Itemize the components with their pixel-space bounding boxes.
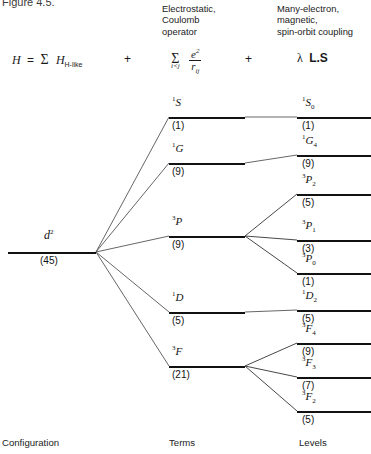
coulomb-sum-subscript: i<j xyxy=(171,63,180,70)
footer-label-configuration: Configuration xyxy=(2,437,59,448)
term-label-3F: 3F xyxy=(172,344,182,357)
term-label-1S: 1S xyxy=(172,95,181,108)
configuration-degeneracy: (45) xyxy=(40,255,58,266)
level-label-1D2: 1D2 xyxy=(302,288,317,304)
lambda-symbol: λ xyxy=(297,51,303,65)
term-line-1G xyxy=(169,163,245,165)
coulomb-fraction: e2 rij xyxy=(189,46,201,77)
sum-symbol: Σ xyxy=(40,52,48,67)
level-line-3P1 xyxy=(297,240,371,242)
h-like-subscript: H-like xyxy=(65,61,83,68)
level-line-1G4 xyxy=(297,155,371,157)
level-label-3F3: 3F3 xyxy=(302,355,316,371)
level-line-3F3 xyxy=(297,377,371,379)
level-label-3P2: 3P2 xyxy=(302,172,316,188)
column-header-spinorbit: Many-electron, magnetic, spin-orbit coup… xyxy=(277,3,353,37)
energy-level-diagram: Figure 4.5. Electrostatic, Coulomb opera… xyxy=(0,0,371,454)
header-line-3: spin-orbit coupling xyxy=(277,26,353,37)
term-degeneracy-1S: (1) xyxy=(172,120,184,131)
level-line-3F4 xyxy=(297,343,371,345)
term-line-1D xyxy=(169,312,245,314)
term-label-3P: 3P xyxy=(172,214,182,227)
equals-sign: = xyxy=(27,53,34,67)
term-line-1S xyxy=(169,117,245,119)
term-degeneracy-1D: (5) xyxy=(172,315,184,326)
level-degeneracy-1S0: (1) xyxy=(302,120,314,131)
configuration-level-line xyxy=(8,252,96,254)
level-degeneracy-1G4: (9) xyxy=(302,158,314,169)
level-degeneracy-3P2: (5) xyxy=(302,197,314,208)
term-degeneracy-1G: (9) xyxy=(172,166,184,177)
coulomb-numerator: e2 xyxy=(189,46,201,60)
level-line-3P0 xyxy=(297,273,371,275)
figure-caption: Figure 4.5. xyxy=(2,0,55,8)
configuration-symbol: d2 xyxy=(44,228,54,243)
term-label-1G: 1G xyxy=(172,141,183,154)
footer-label-levels: Levels xyxy=(299,437,327,448)
header-line-1: Electrostatic, xyxy=(162,3,216,14)
level-degeneracy-3F2: (5) xyxy=(302,414,314,425)
term-line-3P xyxy=(169,236,245,238)
header-line-2: Coulomb xyxy=(162,14,216,25)
header-line-2: magnetic, xyxy=(277,14,353,25)
plus-operator-1: + xyxy=(124,52,131,66)
level-label-3P0: 3P0 xyxy=(302,251,316,267)
h-like-symbol: H xyxy=(56,53,65,67)
level-label-3F4: 3F4 xyxy=(302,321,316,337)
level-degeneracy-3P0: (1) xyxy=(302,276,314,287)
level-line-1D2 xyxy=(297,310,371,312)
level-label-1S0: 1S0 xyxy=(302,95,315,111)
header-line-3: operator xyxy=(162,26,216,37)
column-header-electrostatic: Electrostatic, Coulomb operator xyxy=(162,3,216,37)
hamiltonian-symbol: H xyxy=(12,53,21,67)
level-label-1G4: 1G4 xyxy=(302,133,317,149)
term-degeneracy-3P: (9) xyxy=(172,239,184,250)
level-label-3F2: 3F2 xyxy=(302,389,316,405)
ls-symbol: L.S xyxy=(309,51,328,65)
header-line-1: Many-electron, xyxy=(277,3,353,14)
spin-orbit-operator: λ L.S xyxy=(297,51,328,66)
coulomb-operator: Σ i<j e2 rij xyxy=(171,46,201,77)
level-label-3P1: 3P1 xyxy=(302,218,316,234)
level-line-1S0 xyxy=(297,117,371,119)
term-degeneracy-3F: (21) xyxy=(172,369,190,380)
coulomb-denominator: rij xyxy=(189,60,201,77)
level-line-3P2 xyxy=(297,194,371,196)
footer-label-terms: Terms xyxy=(169,437,195,448)
term-label-1D: 1D xyxy=(172,290,183,303)
term-line-3F xyxy=(169,366,245,368)
plus-operator-2: + xyxy=(245,52,252,66)
level-line-3F2 xyxy=(297,411,371,413)
hamiltonian-equation: H = Σ HH-like xyxy=(12,52,82,68)
